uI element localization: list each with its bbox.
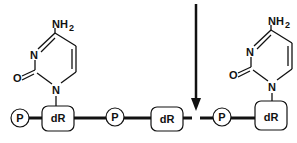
sugar-1-label: dR <box>51 112 66 124</box>
dna-abasic-diagram: P dR P dR P dR <box>0 0 297 143</box>
strand-break-arrow-icon <box>191 4 201 111</box>
oxygen-right: O <box>229 69 238 81</box>
phosphate-1: P <box>11 109 29 127</box>
phosphate-3: P <box>213 108 231 126</box>
n1-right: N <box>268 81 276 93</box>
sugar-3: dR <box>255 101 287 130</box>
amine-left: NH <box>52 18 68 30</box>
phosphate-3-label: P <box>218 111 225 123</box>
phosphate-2-label: P <box>111 111 118 123</box>
amine-sub-right: 2 <box>285 20 290 30</box>
sugar-3-label: dR <box>264 111 279 123</box>
sugar-2-label: dR <box>160 113 175 125</box>
cytosine-right: NH 2 N O N <box>229 15 292 101</box>
cytosine-left: NH 2 N O N <box>13 18 76 106</box>
sugar-1: dR <box>42 106 74 131</box>
phosphate-1-label: P <box>16 112 23 124</box>
amine-sub-left: 2 <box>69 23 74 33</box>
phosphate-2: P <box>106 108 124 126</box>
n3-left: N <box>30 49 38 61</box>
n1-left: N <box>52 84 60 96</box>
oxygen-left: O <box>13 72 22 84</box>
sugar-2-abasic: dR <box>151 107 183 131</box>
amine-right: NH <box>268 15 284 27</box>
n3-right: N <box>246 46 254 58</box>
